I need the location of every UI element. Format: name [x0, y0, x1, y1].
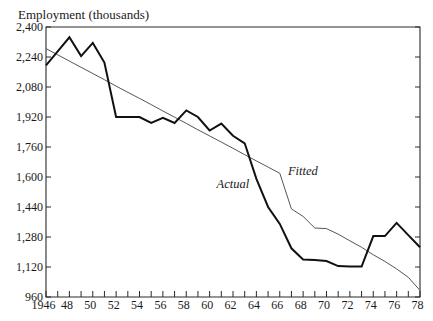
y-tick-label: 2,080	[16, 80, 43, 94]
plot-frame	[46, 27, 420, 297]
x-tick-label: 52	[108, 298, 120, 312]
x-tick-label: 56	[154, 298, 166, 312]
x-tick-label: 50	[84, 298, 96, 312]
y-tick-label: 1,280	[16, 230, 43, 244]
annotation-actual: Actual	[216, 177, 250, 191]
x-axis-labels: 194648505254565860626466687072747678	[32, 298, 424, 312]
y-tick-label: 1,920	[16, 110, 43, 124]
x-tick-label: 68	[295, 298, 307, 312]
y-tick-label: 2,240	[16, 50, 43, 64]
annotation-fitted: Fitted	[287, 164, 319, 178]
actual-series-line	[46, 37, 420, 266]
x-tick-label: 76	[388, 298, 400, 312]
employment-line-chart: Employment (thousands) 9601,1201,2801,44…	[0, 0, 433, 321]
y-tick-label: 2,400	[16, 20, 43, 34]
x-tick-label: 48	[61, 298, 73, 312]
x-tick-label: 54	[131, 298, 143, 312]
y-tick-label: 1,440	[16, 200, 43, 214]
y-tick-label: 1,760	[16, 140, 43, 154]
x-tick-label: 62	[225, 298, 237, 312]
x-tick-label: 70	[318, 298, 330, 312]
x-tick-label: 66	[271, 298, 283, 312]
x-tick-label: 58	[178, 298, 190, 312]
x-tick-label: 72	[341, 298, 353, 312]
x-tick-label: 60	[201, 298, 213, 312]
y-tick-label: 1,120	[16, 260, 43, 274]
fitted-series-line	[46, 49, 420, 291]
y-axis-labels: 9601,1201,2801,4401,6001,7601,9202,0802,…	[16, 20, 43, 304]
y-tick-label: 1,600	[16, 170, 43, 184]
x-tick-label: 74	[365, 298, 377, 312]
x-tick-label: 64	[248, 298, 260, 312]
x-tick-label: 1946	[32, 298, 56, 312]
axis-ticks	[46, 27, 420, 297]
x-tick-label: 78	[412, 298, 424, 312]
